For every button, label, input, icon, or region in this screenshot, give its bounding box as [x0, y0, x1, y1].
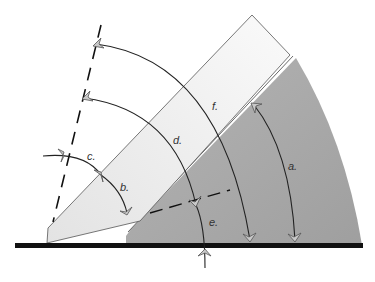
label-e: e. [209, 216, 218, 228]
label-c: c. [87, 150, 96, 162]
blade-angle-diagram: a. b. c. d. e. f. [0, 0, 375, 282]
label-d: d. [173, 134, 182, 146]
label-f: f. [212, 100, 218, 112]
baseline [15, 243, 363, 248]
label-a: a. [288, 160, 297, 172]
arrowhead-f-top [93, 38, 104, 48]
label-b: b. [120, 181, 129, 193]
